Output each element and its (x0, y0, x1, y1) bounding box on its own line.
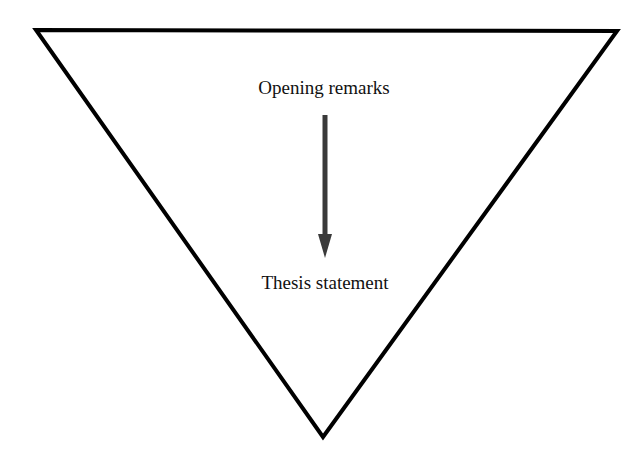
opening-remarks-label: Opening remarks (258, 77, 389, 99)
funnel-graphic (0, 0, 641, 471)
thesis-statement-label: Thesis statement (261, 272, 388, 294)
funnel-diagram: Opening remarks Thesis statement (0, 0, 641, 471)
down-arrow-icon (318, 115, 332, 258)
